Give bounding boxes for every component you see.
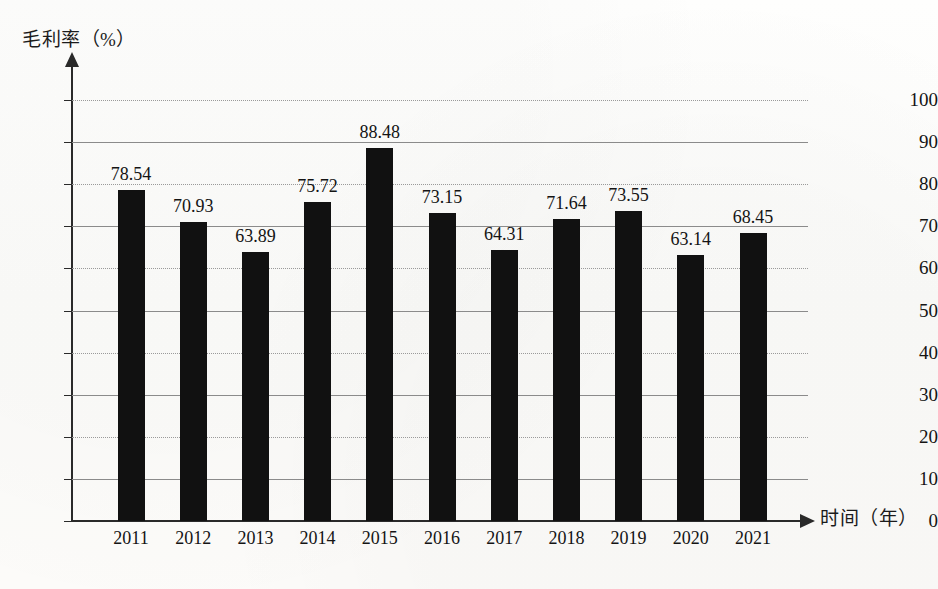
x-axis-tick-label: 2015 <box>362 528 398 549</box>
x-axis-tick-label: 2019 <box>611 528 647 549</box>
y-axis-tick-label: 0 <box>882 510 938 532</box>
x-axis-tick-label: 2016 <box>424 528 460 549</box>
x-axis-tick-label: 2014 <box>300 528 336 549</box>
y-axis-title: 毛利率（%） <box>22 24 136 51</box>
gridline <box>72 142 808 143</box>
x-axis-arrow-icon <box>800 514 815 528</box>
x-axis-tick-label: 2012 <box>175 528 211 549</box>
bar-value-label: 63.14 <box>671 229 712 250</box>
y-axis-tick-mark <box>64 268 72 269</box>
x-axis-tick-label: 2021 <box>735 528 771 549</box>
bar[interactable] <box>118 190 145 521</box>
y-axis-tick-mark <box>64 521 72 522</box>
bar-value-label: 73.55 <box>608 185 649 206</box>
x-axis-tick-label: 2011 <box>113 528 148 549</box>
bar[interactable] <box>553 219 580 521</box>
bar[interactable] <box>677 255 704 521</box>
bar-chart: 毛利率（%） 时间（年） 0102030405060708090100 78.5… <box>0 0 938 589</box>
bar[interactable] <box>615 211 642 521</box>
y-axis-tick-label: 60 <box>882 257 938 279</box>
bar-value-label: 75.72 <box>297 176 338 197</box>
y-axis-tick-label: 40 <box>882 342 938 364</box>
bar-value-label: 73.15 <box>422 187 463 208</box>
y-axis-tick-label: 90 <box>882 131 938 153</box>
bar-value-label: 64.31 <box>484 224 525 245</box>
bar-value-label: 71.64 <box>546 193 587 214</box>
y-axis-tick-mark <box>64 479 72 480</box>
gridline <box>72 184 808 185</box>
bar[interactable] <box>304 202 331 521</box>
bar-value-label: 70.93 <box>173 196 214 217</box>
y-axis-tick-mark <box>64 437 72 438</box>
bar[interactable] <box>242 252 269 521</box>
y-axis-tick-label: 50 <box>882 300 938 322</box>
y-axis-tick-label: 100 <box>882 89 938 111</box>
bar-value-label: 68.45 <box>733 207 774 228</box>
y-axis-tick-label: 80 <box>882 173 938 195</box>
bar-value-label: 78.54 <box>111 164 152 185</box>
y-axis-tick-mark <box>64 311 72 312</box>
x-axis-tick-label: 2013 <box>237 528 273 549</box>
gridline <box>72 100 808 101</box>
y-axis-tick-mark <box>64 142 72 143</box>
bar-value-label: 63.89 <box>235 226 276 247</box>
x-axis-tick-label: 2017 <box>486 528 522 549</box>
y-axis-tick-label: 10 <box>882 468 938 490</box>
y-axis-tick-mark <box>64 353 72 354</box>
bar[interactable] <box>429 213 456 521</box>
y-axis-tick-label: 20 <box>882 426 938 448</box>
bar[interactable] <box>180 222 207 521</box>
bar-value-label: 88.48 <box>360 122 401 143</box>
y-axis-tick-mark <box>64 395 72 396</box>
bar[interactable] <box>366 148 393 521</box>
y-axis-tick-label: 30 <box>882 384 938 406</box>
bar[interactable] <box>491 250 518 521</box>
y-axis-tick-label: 70 <box>882 215 938 237</box>
y-axis-line <box>71 62 73 522</box>
y-axis-tick-mark <box>64 184 72 185</box>
x-axis-tick-label: 2020 <box>673 528 709 549</box>
bar[interactable] <box>740 233 767 521</box>
y-axis-tick-mark <box>64 100 72 101</box>
x-axis-tick-label: 2018 <box>548 528 584 549</box>
y-axis-tick-mark <box>64 226 72 227</box>
